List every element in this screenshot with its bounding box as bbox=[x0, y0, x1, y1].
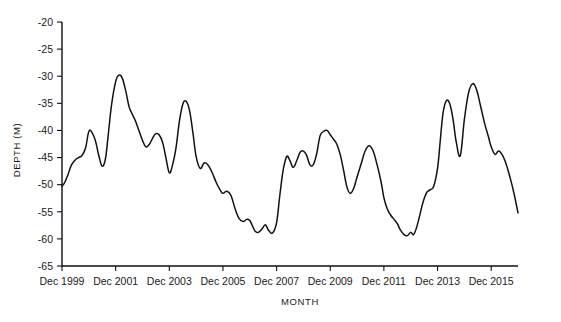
x-tick-label: Dec 2007 bbox=[254, 275, 299, 287]
series-line-0 bbox=[62, 75, 518, 236]
axis-spine bbox=[62, 22, 518, 266]
y-tick-label: -50 bbox=[38, 178, 53, 190]
y-tick-label: -35 bbox=[38, 97, 53, 109]
x-tick-label: Dec 1999 bbox=[40, 275, 85, 287]
data-series-group bbox=[62, 75, 518, 236]
x-tick-label: Dec 2001 bbox=[93, 275, 138, 287]
y-axis-ticks: -20-25-30-35-40-45-50-55-60-65 bbox=[38, 16, 62, 272]
y-tick-label: -30 bbox=[38, 70, 53, 82]
y-tick-label: -65 bbox=[38, 260, 53, 272]
y-tick-label: -55 bbox=[38, 206, 53, 218]
x-tick-label: Dec 2005 bbox=[200, 275, 245, 287]
y-tick-label: -45 bbox=[38, 151, 53, 163]
axis-group bbox=[62, 22, 518, 266]
y-axis-title: DEPTH (M) bbox=[11, 123, 22, 177]
x-tick-label: Dec 2011 bbox=[362, 275, 406, 287]
y-tick-label: -60 bbox=[38, 233, 53, 245]
x-tick-label: Dec 2003 bbox=[147, 275, 192, 287]
x-tick-label: Dec 2015 bbox=[469, 275, 514, 287]
x-axis-title: MONTH bbox=[281, 296, 319, 307]
y-tick-label: -20 bbox=[38, 16, 53, 28]
chart-container: -20-25-30-35-40-45-50-55-60-65 Dec 1999D… bbox=[0, 0, 561, 322]
x-tick-label: Dec 2013 bbox=[415, 275, 460, 287]
x-tick-label: Dec 2009 bbox=[308, 275, 353, 287]
line-chart: -20-25-30-35-40-45-50-55-60-65 Dec 1999D… bbox=[0, 0, 561, 322]
y-tick-label: -25 bbox=[38, 43, 53, 55]
y-tick-label: -40 bbox=[38, 124, 53, 136]
x-axis-ticks: Dec 1999Dec 2001Dec 2003Dec 2005Dec 2007… bbox=[40, 266, 514, 287]
